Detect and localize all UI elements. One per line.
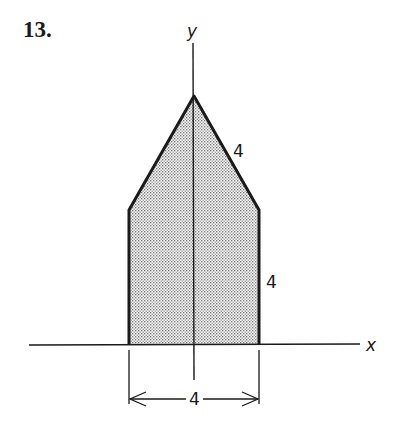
diagram: y x 4 4 4 [0,0,400,434]
x-axis-label: x [365,335,377,355]
vertical-side-label: 4 [266,272,277,292]
base-width-label: 4 [189,389,200,409]
y-axis-label: y [186,21,198,41]
slanted-side-label: 4 [233,141,244,161]
